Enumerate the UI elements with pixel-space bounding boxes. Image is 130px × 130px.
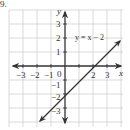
- y-tick-label: 3: [56, 19, 61, 29]
- x-tick-label: −1: [44, 70, 54, 80]
- y-tick-label: 2: [56, 33, 61, 43]
- y-tick-label: −3: [51, 106, 61, 116]
- x-tick-label: −3: [16, 70, 26, 80]
- x-axis-label: x: [118, 68, 123, 78]
- grid: [9, 10, 123, 127]
- x-tick-label: 2: [91, 70, 96, 80]
- x-tick-label: −2: [30, 70, 40, 80]
- y-tick-label: −1: [51, 80, 61, 90]
- x-tick-label: 3: [105, 70, 110, 80]
- origin-label: 0: [57, 69, 62, 79]
- y-tick-label: 1: [56, 47, 61, 57]
- coordinate-plane: x y y = x − 2 −3 −2 −1 0 2 3 3 2 1 −1 −2…: [0, 0, 130, 130]
- y-axis-label: y: [56, 6, 61, 16]
- equation-label: y = x − 2: [75, 33, 104, 42]
- y-tick-label: −2: [51, 92, 61, 102]
